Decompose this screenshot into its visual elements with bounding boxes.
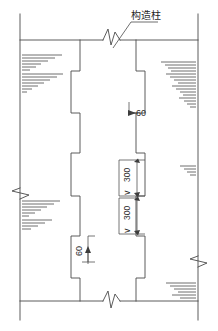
top-joint-dimension: 60 <box>136 108 146 118</box>
drawing-svg: 构造柱 60 300 ∨ <box>0 0 218 331</box>
lower-course-compare-symbol: ∨ <box>122 227 132 234</box>
bottom-joint-dimension: 60 <box>74 246 84 256</box>
upper-dim-arrow-top <box>134 159 140 164</box>
masonry-hatch-right-lower <box>166 283 196 298</box>
masonry-hatch-left-lower <box>22 201 60 229</box>
upper-dim-extensions <box>137 160 145 196</box>
lower-dim-arrow-top <box>134 197 140 202</box>
masonry-hatch-left-upper <box>22 55 63 92</box>
upper-course-compare-symbol: ∨ <box>122 189 132 196</box>
constructional-column-callout: 构造柱 <box>131 9 161 21</box>
top-break-symbol <box>103 29 120 45</box>
upper-course-dimension: 300 <box>122 168 132 182</box>
bottom-dim-arrowhead <box>85 246 91 253</box>
technical-drawing-canvas: 构造柱 60 300 ∨ <box>0 0 218 331</box>
wall-frame-group <box>20 14 198 320</box>
upper-dim-arrow-bottom <box>134 192 140 198</box>
column-left-toothed-edge <box>71 40 80 301</box>
column-callout-leader-group <box>113 22 158 48</box>
masonry-hatch-right-mid <box>180 166 196 175</box>
masonry-hatch-right-upper <box>161 62 196 107</box>
lower-course-dimension: 300 <box>122 206 132 220</box>
lower-dim-arrow-bottom <box>134 230 140 236</box>
right-wall-break-symbol <box>190 256 207 267</box>
bottom-break-symbol <box>103 291 120 308</box>
column-callout-leader-line <box>113 22 131 48</box>
left-wall-break-symbol <box>12 188 29 199</box>
